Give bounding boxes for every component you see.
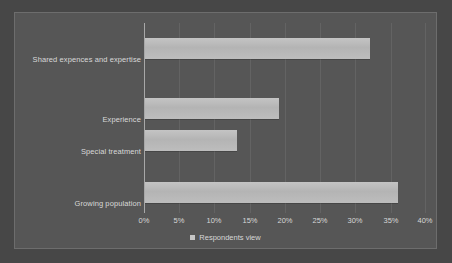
gridline bbox=[425, 23, 426, 213]
x-tick-label: 10% bbox=[206, 216, 221, 225]
x-tick-label: 0% bbox=[139, 216, 150, 225]
plot-area bbox=[144, 23, 426, 213]
category-label: Experience bbox=[29, 115, 141, 124]
bar bbox=[145, 182, 398, 203]
x-tick-label: 25% bbox=[312, 216, 327, 225]
bar bbox=[145, 38, 370, 59]
x-tick-label: 40% bbox=[417, 216, 432, 225]
x-tick-label: 5% bbox=[174, 216, 185, 225]
category-label: Shared expences and expertise bbox=[29, 55, 141, 64]
category-label: Special treatment bbox=[29, 147, 141, 156]
x-tick-label: 20% bbox=[277, 216, 292, 225]
value-axis-tick-labels: 0% 5% 10% 15% 20% 25% 30% 35% 40% bbox=[144, 216, 426, 230]
x-tick-label: 15% bbox=[242, 216, 257, 225]
bar bbox=[145, 130, 237, 151]
bar bbox=[145, 98, 279, 119]
category-label: Growing population bbox=[29, 199, 141, 208]
x-tick-label: 35% bbox=[383, 216, 398, 225]
legend-label: Respondents view bbox=[199, 233, 260, 242]
x-tick-label: 30% bbox=[347, 216, 362, 225]
chart-legend: Respondents view bbox=[15, 233, 436, 242]
legend-swatch-icon bbox=[190, 235, 195, 240]
chart-panel: Shared expences and expertise Experience… bbox=[14, 12, 437, 249]
chart-screenshot: Shared expences and expertise Experience… bbox=[0, 0, 452, 263]
category-axis-labels: Shared expences and expertise Experience… bbox=[29, 35, 141, 225]
